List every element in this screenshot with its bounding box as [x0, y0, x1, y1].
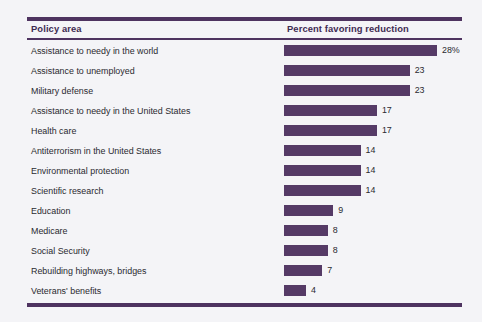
- bar: [284, 205, 333, 216]
- bar: [284, 105, 377, 116]
- bar-value-label: 4: [311, 285, 316, 296]
- bar: [284, 245, 328, 256]
- bar-value-label: 7: [327, 265, 332, 276]
- bar: [284, 145, 361, 156]
- bar-value-label: 23: [415, 65, 425, 76]
- row-bar-zone: 14: [284, 145, 375, 157]
- bar-value-label: 9: [338, 205, 343, 216]
- table-row: Social Security8: [0, 244, 482, 264]
- table-row: Medicare8: [0, 224, 482, 244]
- bar-value-label: 14: [366, 145, 376, 156]
- row-label-policy-area: Antiterrorism in the United States: [31, 145, 161, 157]
- row-bar-zone: 8: [284, 225, 338, 237]
- row-label-policy-area: Rebuilding highways, bridges: [31, 265, 146, 277]
- table-bottom-rule: [27, 303, 462, 307]
- row-bar-zone: 17: [284, 105, 392, 117]
- bar-value-label: 17: [382, 125, 392, 136]
- row-label-policy-area: Assistance to unemployed: [31, 65, 135, 77]
- table-row: Environmental protection14: [0, 164, 482, 184]
- table-row: Health care17: [0, 124, 482, 144]
- bar: [284, 45, 437, 56]
- table-row: Assistance to unemployed23: [0, 64, 482, 84]
- row-bar-zone: 7: [284, 265, 332, 277]
- bar: [284, 165, 361, 176]
- row-label-policy-area: Assistance to needy in the world: [31, 45, 158, 57]
- row-label-policy-area: Social Security: [31, 245, 90, 257]
- row-bar-zone: 23: [284, 85, 425, 97]
- chart-figure: Policy area Percent favoring reduction A…: [0, 0, 482, 322]
- bar-value-label: 8: [333, 245, 338, 256]
- table-row: Education9: [0, 204, 482, 224]
- row-bar-zone: 8: [284, 245, 338, 257]
- row-bar-zone: 4: [284, 285, 316, 297]
- bar-value-label: 14: [366, 185, 376, 196]
- row-bar-zone: 28%: [284, 45, 460, 57]
- bar: [284, 125, 377, 136]
- table-top-rule: [27, 17, 462, 21]
- row-label-policy-area: Military defense: [31, 85, 93, 97]
- bar-value-label: 23: [415, 85, 425, 96]
- row-label-policy-area: Assistance to needy in the United States: [31, 105, 190, 117]
- column-header-policy-area: Policy area: [31, 23, 82, 34]
- row-bar-zone: 9: [284, 205, 343, 217]
- column-header-percent-favoring-reduction: Percent favoring reduction: [287, 23, 409, 34]
- bar-value-label: 14: [366, 165, 376, 176]
- table-row: Assistance to needy in the United States…: [0, 104, 482, 124]
- bar: [284, 65, 410, 76]
- bar: [284, 265, 322, 276]
- row-label-policy-area: Medicare: [31, 225, 68, 237]
- bar: [284, 285, 306, 296]
- row-bar-zone: 17: [284, 125, 392, 137]
- row-label-policy-area: Veterans' benefits: [31, 285, 101, 297]
- bar: [284, 225, 328, 236]
- bar-value-label: 17: [382, 105, 392, 116]
- row-bar-zone: 23: [284, 65, 425, 77]
- row-label-policy-area: Education: [31, 205, 70, 217]
- table-row: Veterans' benefits4: [0, 284, 482, 304]
- table-row: Antiterrorism in the United States14: [0, 144, 482, 164]
- row-label-policy-area: Health care: [31, 125, 76, 137]
- bar-value-label: 8: [333, 225, 338, 236]
- row-label-policy-area: Environmental protection: [31, 165, 129, 177]
- table-row: Scientific research14: [0, 184, 482, 204]
- table-row: Military defense23: [0, 84, 482, 104]
- bar: [284, 85, 410, 96]
- bar-chart-rows: Assistance to needy in the world28%Assis…: [0, 44, 482, 304]
- bar: [284, 185, 361, 196]
- row-label-policy-area: Scientific research: [31, 185, 104, 197]
- table-header-rule: [27, 38, 462, 40]
- row-bar-zone: 14: [284, 185, 375, 197]
- row-bar-zone: 14: [284, 165, 375, 177]
- table-row: Rebuilding highways, bridges7: [0, 264, 482, 284]
- bar-value-label: 28%: [442, 45, 460, 56]
- table-row: Assistance to needy in the world28%: [0, 44, 482, 64]
